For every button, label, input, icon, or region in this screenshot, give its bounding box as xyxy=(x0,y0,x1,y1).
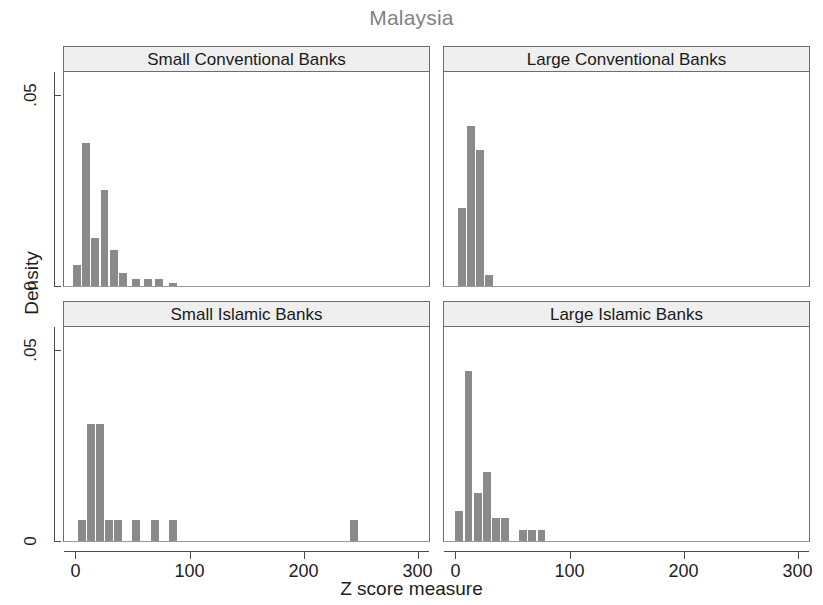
y-tick-mark xyxy=(54,286,61,287)
panel-3: Small Islamic Banks xyxy=(63,301,430,542)
panel-title-text: Small Islamic Banks xyxy=(170,306,322,323)
histogram-bar xyxy=(114,520,122,541)
y-axis-line xyxy=(54,72,55,286)
histogram-bar xyxy=(485,275,493,286)
panel-title-bar: Small Conventional Banks xyxy=(63,46,430,72)
y-tick-label: 0 xyxy=(21,521,41,561)
histogram-bars xyxy=(64,72,429,286)
panel-2: Large Conventional Banks xyxy=(443,46,810,287)
y-tick-label: .05 xyxy=(21,330,41,370)
x-tick-label: 200 xyxy=(274,561,334,582)
x-tick-mark xyxy=(75,552,76,559)
x-axis-line xyxy=(64,551,429,552)
histogram-bar xyxy=(132,279,140,286)
histogram-bar xyxy=(519,530,527,541)
x-tick-mark xyxy=(570,552,571,559)
x-tick-mark xyxy=(304,552,305,559)
histogram-bar xyxy=(538,530,546,541)
histogram-bar xyxy=(87,424,95,541)
histogram-bar xyxy=(501,518,509,541)
panel-title-text: Small Conventional Banks xyxy=(147,51,345,68)
y-tick-mark xyxy=(54,95,61,96)
y-tick-mark xyxy=(54,541,61,542)
histogram-bar xyxy=(476,150,484,286)
y-axis-line xyxy=(54,327,55,541)
histogram-bar xyxy=(82,143,90,286)
panel-title-text: Large Conventional Banks xyxy=(527,51,726,68)
plot-area xyxy=(63,72,430,287)
x-tick-mark xyxy=(684,552,685,559)
histogram-bar xyxy=(151,520,159,541)
figure-root: Malaysia Density Z score measure Small C… xyxy=(0,0,823,605)
histogram-bar xyxy=(465,371,473,541)
histogram-bar xyxy=(91,238,99,286)
histogram-bar xyxy=(132,520,140,541)
histogram-bar xyxy=(455,511,463,541)
panel-4: Large Islamic Banks xyxy=(443,301,810,542)
histogram-bar xyxy=(78,520,86,541)
x-tick-label: 100 xyxy=(540,561,600,582)
histogram-bars xyxy=(444,72,809,286)
histogram-bar xyxy=(492,518,500,541)
panel-title-bar: Small Islamic Banks xyxy=(63,301,430,327)
panel-title-text: Large Islamic Banks xyxy=(550,306,703,323)
histogram-bar xyxy=(467,126,475,287)
x-tick-mark xyxy=(190,552,191,559)
histogram-bar xyxy=(474,493,482,541)
histogram-bar xyxy=(458,208,466,286)
histogram-bar xyxy=(483,472,491,541)
x-axis-line xyxy=(444,551,809,552)
histogram-bar xyxy=(144,279,152,286)
x-tick-label: 100 xyxy=(160,561,220,582)
x-tick-label: 0 xyxy=(45,561,105,582)
histogram-bar xyxy=(101,190,109,286)
plot-area xyxy=(63,327,430,542)
x-tick-mark xyxy=(418,552,419,559)
panel-title-bar: Large Islamic Banks xyxy=(443,301,810,327)
histogram-bar xyxy=(350,520,358,541)
histogram-bars xyxy=(444,327,809,541)
x-tick-mark xyxy=(455,552,456,559)
histogram-bars xyxy=(64,327,429,541)
y-tick-mark xyxy=(54,350,61,351)
x-tick-label: 200 xyxy=(654,561,714,582)
panel-1: Small Conventional Banks xyxy=(63,46,430,287)
plot-area xyxy=(443,327,810,542)
histogram-bar xyxy=(155,279,163,286)
x-tick-label: 300 xyxy=(768,561,823,582)
histogram-bar xyxy=(96,424,104,541)
histogram-bar xyxy=(110,250,118,286)
panel-title-bar: Large Conventional Banks xyxy=(443,46,810,72)
y-tick-label: 0 xyxy=(21,266,41,306)
histogram-bar xyxy=(169,283,177,286)
x-tick-label: 0 xyxy=(425,561,485,582)
histogram-bar xyxy=(73,265,81,286)
histogram-bar xyxy=(105,520,113,541)
plot-area xyxy=(443,72,810,287)
histogram-bar xyxy=(169,520,177,541)
figure-title: Malaysia xyxy=(0,6,823,30)
histogram-bar xyxy=(528,530,536,541)
x-tick-mark xyxy=(798,552,799,559)
y-tick-label: .05 xyxy=(21,75,41,115)
histogram-bar xyxy=(119,273,127,286)
